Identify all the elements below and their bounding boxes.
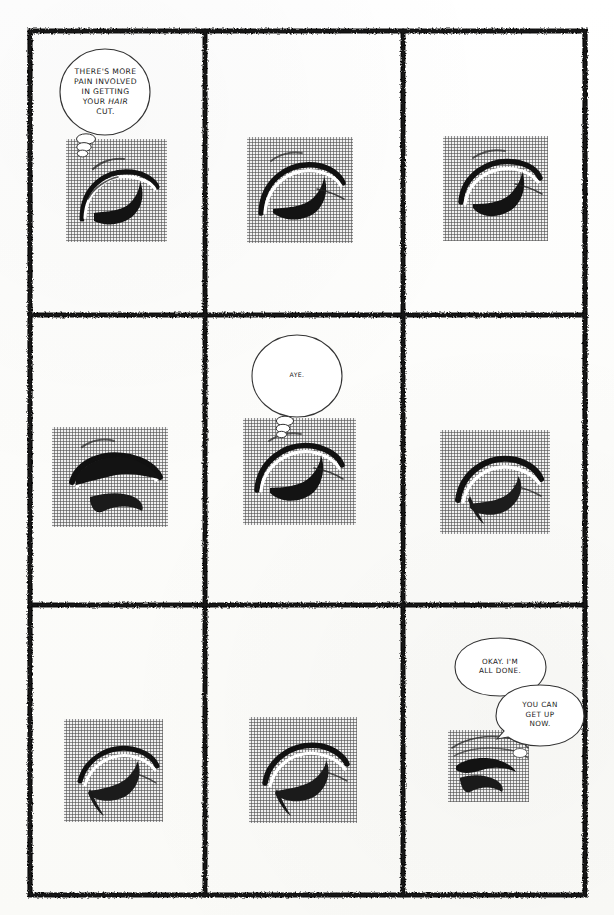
panel-6-halftone-image bbox=[440, 430, 550, 534]
eye-illustration bbox=[52, 427, 168, 527]
eye-illustration bbox=[249, 717, 357, 823]
comic-panel-6 bbox=[403, 315, 585, 605]
balloon-1-shape bbox=[57, 46, 154, 158]
speech-balloon-1: THERE'S MORE PAIN INVOLVED IN GETTING YO… bbox=[57, 46, 154, 138]
eye-illustration bbox=[247, 137, 353, 243]
comic-panel-9: OKAY. I'M ALL DONE. YOU CAN GET UP NOW. bbox=[403, 605, 585, 895]
speech-balloon-4: YOU CAN GET UP NOW. bbox=[493, 683, 587, 749]
comic-panel-5: AYE. bbox=[205, 315, 403, 605]
comic-page: THERE'S MORE PAIN INVOLVED IN GETTING YO… bbox=[0, 0, 614, 915]
comic-panel-1: THERE'S MORE PAIN INVOLVED IN GETTING YO… bbox=[30, 31, 205, 315]
comic-panel-8 bbox=[205, 605, 403, 895]
panel-2-halftone-image bbox=[247, 137, 353, 243]
eye-illustration bbox=[440, 430, 550, 534]
comic-panel-4 bbox=[30, 315, 205, 605]
eye-illustration bbox=[443, 136, 548, 241]
comic-panel-7 bbox=[30, 605, 205, 895]
balloon-2-shape bbox=[247, 333, 347, 439]
panel-8-halftone-image bbox=[249, 717, 357, 823]
panel-3-halftone-image bbox=[443, 136, 548, 241]
comic-panel-2 bbox=[205, 31, 403, 315]
eye-illustration bbox=[64, 719, 163, 822]
panel-4-halftone-image bbox=[52, 427, 168, 527]
speech-balloon-2: AYE. bbox=[247, 333, 347, 417]
balloon-4-shape bbox=[493, 683, 593, 767]
comic-panel-3 bbox=[403, 31, 585, 315]
panel-7-halftone-image bbox=[64, 719, 163, 822]
